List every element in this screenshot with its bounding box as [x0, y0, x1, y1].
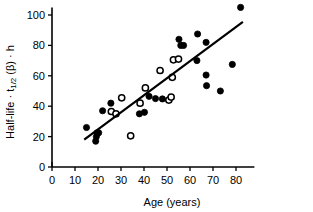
y-axis-title-suffix: (β) · h [4, 45, 16, 78]
x-tick-label: 20 [92, 174, 104, 186]
data-point-filled [238, 4, 244, 10]
data-point-open [128, 133, 134, 139]
data-point-filled [203, 72, 209, 78]
y-tick-label: 0 [39, 161, 45, 173]
series-open [108, 56, 181, 139]
x-tick-label: 30 [115, 174, 127, 186]
x-tick-label: 50 [161, 174, 173, 186]
data-point-filled [180, 42, 186, 48]
data-point-open [119, 95, 125, 101]
y-tick-label: 100 [27, 9, 45, 21]
regression-line [84, 22, 243, 140]
data-point-open [175, 56, 181, 62]
data-point-filled [176, 36, 182, 42]
y-axis-title-prefix: Half-life · t [4, 89, 16, 139]
data-point-filled [100, 108, 106, 114]
y-axis-title: Half-life · t1/2 (β) · h [4, 45, 18, 139]
x-axis-tick-labels: 01020304050607080 [49, 174, 242, 186]
data-point-filled [217, 88, 223, 94]
data-point-open [142, 85, 148, 91]
x-tick-label: 80 [230, 174, 242, 186]
data-point-filled [203, 83, 209, 89]
data-point-filled [108, 100, 114, 106]
data-point-filled [203, 39, 209, 45]
x-axis: 01020304050607080 [49, 162, 254, 186]
y-tick-label: 40 [33, 100, 45, 112]
data-point-filled [141, 109, 147, 115]
x-tick-label: 70 [207, 174, 219, 186]
x-axis-title: Age (years) [144, 196, 201, 208]
x-tick-label: 10 [69, 174, 81, 186]
data-point-filled [83, 124, 89, 130]
scatter-plot: 020406080100 01020304050607080 Age (year… [0, 0, 313, 212]
data-point-filled [194, 31, 200, 37]
data-point-open [157, 67, 163, 73]
chart-figure: 020406080100 01020304050607080 Age (year… [0, 0, 313, 212]
x-tick-label: 40 [138, 174, 150, 186]
y-tick-label: 60 [33, 70, 45, 82]
y-axis-title-text: Half-life · t1/2 (β) · h [4, 45, 18, 139]
data-point-filled [159, 96, 165, 102]
data-point-filled [229, 61, 235, 67]
data-point-filled [152, 96, 158, 102]
y-tick-label: 80 [33, 39, 45, 51]
y-axis: 020406080100 [27, 7, 52, 173]
y-axis-tick-labels: 020406080100 [27, 9, 45, 173]
x-tick-label: 60 [184, 174, 196, 186]
y-axis-title-subscript: 1/2 [9, 77, 18, 89]
data-point-open [168, 94, 174, 100]
y-tick-label: 20 [33, 131, 45, 143]
x-tick-label: 0 [49, 174, 55, 186]
